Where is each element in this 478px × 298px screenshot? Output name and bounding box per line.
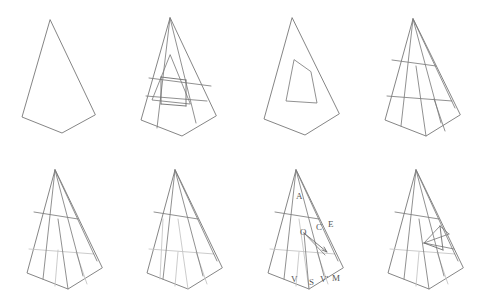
panel-7-label-v-prime: V' xyxy=(320,274,328,284)
panel-7-label-e: E xyxy=(328,219,334,229)
figure-root: AOCEVSV'M xyxy=(0,0,478,298)
panel-7-label-m: M xyxy=(332,273,340,283)
panel-7-label-o: O xyxy=(300,227,307,237)
panel-7-label-v: V xyxy=(291,274,298,284)
panel-7-label-s: S xyxy=(309,277,314,287)
panel-7-label-a: A xyxy=(296,191,303,201)
panel-7-label-c: C xyxy=(316,222,322,232)
geometry-figure-canvas: AOCEVSV'M xyxy=(0,0,478,298)
